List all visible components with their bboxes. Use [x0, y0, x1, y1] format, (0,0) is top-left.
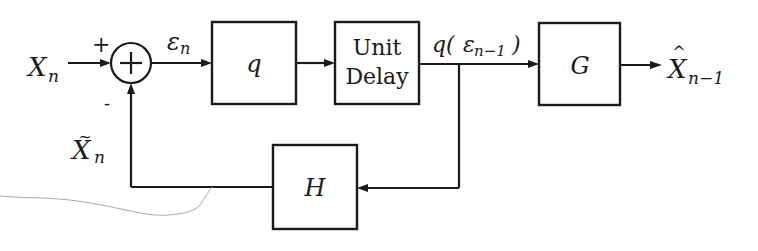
input-arrow-icon: [100, 59, 111, 67]
svg-text:ε: ε: [167, 28, 180, 56]
svg-text:): ): [511, 32, 521, 57]
output-arrow-icon: [650, 61, 662, 69]
output-label: X ^ n−1: [666, 43, 724, 88]
G-block: G: [539, 23, 620, 105]
feedback-arrow-icon: [357, 184, 368, 192]
input-label: X n: [26, 52, 59, 86]
svg-text:q(: q(: [432, 32, 455, 57]
quantizer-block: q: [212, 22, 296, 104]
svg-text:n: n: [180, 39, 190, 58]
svg-text:Unit: Unit: [353, 35, 402, 60]
svg-text:^: ^: [672, 43, 685, 62]
delayed-signal-label: q( ε n−1 ): [432, 32, 521, 60]
unit-delay-block: Unit Delay: [335, 22, 419, 104]
svg-text:H: H: [304, 174, 327, 202]
quantized-arrow-icon: [324, 59, 335, 67]
H-block: H: [273, 145, 357, 229]
feedback-up-arrow-icon: [127, 83, 135, 94]
svg-text:n: n: [48, 66, 59, 86]
feedback-label: X ~ n: [70, 127, 105, 167]
svg-text:n−1: n−1: [688, 68, 724, 88]
svg-text:X: X: [26, 52, 48, 82]
svg-text:G: G: [570, 52, 589, 80]
svg-text:n−1: n−1: [474, 42, 506, 60]
pencil-mark: [0, 187, 212, 215]
block-diagram: X n + - ε n q Unit Delay q( ε n−1: [0, 0, 758, 251]
minus-sign: -: [104, 93, 110, 114]
summing-junction: [111, 43, 151, 83]
svg-text:~: ~: [78, 127, 91, 146]
error-arrow-icon: [201, 59, 212, 67]
svg-text:Delay: Delay: [345, 64, 409, 89]
svg-text:n: n: [94, 147, 105, 167]
plus-sign: +: [92, 32, 110, 57]
svg-text:q: q: [246, 50, 261, 78]
error-signal-label: ε n: [167, 28, 190, 58]
delayed-arrow-icon: [528, 60, 539, 68]
